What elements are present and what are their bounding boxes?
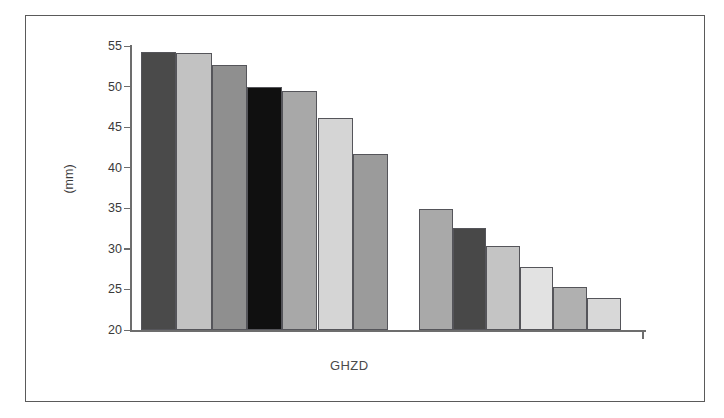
bar — [353, 154, 388, 330]
y-tick-label-text: 40 — [96, 162, 122, 175]
chart-figure: 2025303540455055 (mm) GHZD — [0, 0, 724, 418]
bar — [486, 246, 520, 330]
y-tick-label-text: 20 — [96, 324, 122, 337]
y-tick-label: 35 — [92, 202, 122, 214]
x-axis-end-tick — [642, 330, 644, 339]
bar — [318, 118, 353, 330]
bar — [176, 53, 211, 330]
y-tick-label-text: 55 — [96, 40, 122, 53]
y-tick-label-text: 25 — [96, 283, 122, 296]
bar — [419, 209, 453, 330]
y-axis-label: (mm) — [62, 154, 76, 204]
y-tick-label: 30 — [92, 243, 122, 255]
bar — [247, 87, 282, 330]
y-tick-label: 20 — [92, 324, 122, 336]
bar — [453, 228, 487, 330]
y-tick-mark — [124, 330, 131, 331]
bar — [141, 52, 176, 330]
y-tick-mark — [124, 248, 131, 249]
y-tick-label: 40 — [92, 162, 122, 174]
bar — [520, 267, 554, 330]
y-tick-mark — [124, 127, 131, 128]
y-tick-label: 50 — [92, 81, 122, 93]
x-axis-label: GHZD — [330, 358, 368, 373]
y-tick-mark — [124, 46, 131, 47]
bar — [282, 91, 317, 330]
y-tick-label-text: 30 — [96, 243, 122, 256]
y-tick-label-text: 45 — [96, 121, 122, 134]
y-tick-mark — [124, 86, 131, 87]
y-tick-label-text: 50 — [96, 81, 122, 94]
y-tick-label: 25 — [92, 283, 122, 295]
bar — [553, 287, 587, 330]
y-tick-label: 45 — [92, 121, 122, 133]
x-axis-line — [130, 330, 646, 332]
plot-area: 2025303540455055 (mm) GHZD — [0, 0, 724, 418]
y-tick-label-text: 35 — [96, 202, 122, 215]
y-tick-mark — [124, 289, 131, 290]
y-tick-mark — [124, 167, 131, 168]
bar — [212, 65, 247, 330]
bar — [587, 298, 621, 330]
y-tick-label: 55 — [92, 40, 122, 52]
y-tick-mark — [124, 208, 131, 209]
